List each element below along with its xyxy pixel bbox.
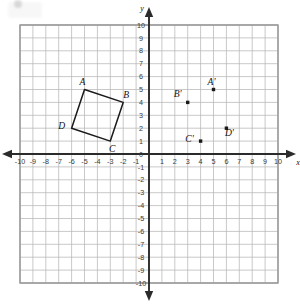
shape-quadrilateral: ABCD xyxy=(57,76,129,155)
y-tick-label-origin: 0 xyxy=(139,150,143,159)
vertex-label: D xyxy=(57,120,65,131)
vertex-label: C' xyxy=(185,133,194,144)
y-tick-label: -5 xyxy=(138,214,144,223)
x-tick-label: -8 xyxy=(43,157,49,166)
coordinate-plane-figure: -10-9-8-7-6-5-4-3-2-112345678910-10-9-8-… xyxy=(0,0,300,307)
y-axis-arrow-up xyxy=(145,7,153,17)
y-tick-label: -9 xyxy=(138,266,144,275)
y-axis-arrow-down xyxy=(145,291,153,301)
y-tick-label: -7 xyxy=(138,240,144,249)
x-tick-label: 4 xyxy=(199,157,203,166)
data-point-marker xyxy=(186,101,189,104)
y-tick-label: 2 xyxy=(139,124,143,133)
x-tick-label: 3 xyxy=(186,157,190,166)
x-tick-label: 8 xyxy=(250,157,254,166)
y-tick-label: 6 xyxy=(139,72,143,81)
data-point-marker xyxy=(199,139,202,142)
x-tick-label: 10 xyxy=(274,157,282,166)
x-tick-label: -10 xyxy=(15,157,25,166)
x-tick-label: 1 xyxy=(160,157,164,166)
x-tick-label: -4 xyxy=(94,157,100,166)
data-point-marker xyxy=(212,88,215,91)
y-tick-label: 3 xyxy=(139,111,143,120)
x-tick-label: -6 xyxy=(68,157,74,166)
coordinate-grid-svg: -10-9-8-7-6-5-4-3-2-112345678910-10-9-8-… xyxy=(0,0,300,307)
x-axis-label: x xyxy=(295,158,300,167)
y-tick-label: -1 xyxy=(138,163,144,172)
vertex-label: A xyxy=(79,76,86,87)
y-tick-label: 5 xyxy=(139,85,143,94)
x-tick-label: -5 xyxy=(81,157,87,166)
y-tick-label: -8 xyxy=(138,253,144,262)
y-axis-label: y xyxy=(139,4,144,13)
x-tick-label: 9 xyxy=(263,157,267,166)
image-point-group: A'B'C'D' xyxy=(174,76,235,145)
y-tick-label: 10 xyxy=(137,21,145,30)
y-tick-label: -2 xyxy=(138,175,144,184)
x-tick-label: -7 xyxy=(55,157,61,166)
x-tick-label: 2 xyxy=(173,157,177,166)
vertex-label: B xyxy=(123,89,129,100)
x-axis-arrow-left xyxy=(2,150,12,158)
y-tick-label: -10 xyxy=(136,279,146,288)
vertex-label: C xyxy=(109,143,116,154)
y-tick-label: 8 xyxy=(139,46,143,55)
tick-labels: -10-9-8-7-6-5-4-3-2-112345678910-10-9-8-… xyxy=(15,4,300,288)
y-tick-label: 4 xyxy=(139,98,143,107)
x-axis-arrow-right xyxy=(286,150,296,158)
x-tick-label: 5 xyxy=(212,157,216,166)
x-tick-label: -9 xyxy=(30,157,36,166)
x-tick-label: -3 xyxy=(107,157,113,166)
y-tick-label: 9 xyxy=(139,34,143,43)
vertex-label: D' xyxy=(224,127,235,138)
x-tick-label: 6 xyxy=(224,157,228,166)
y-tick-label: 1 xyxy=(139,137,143,146)
y-tick-label: -4 xyxy=(138,201,144,210)
x-tick-label: 7 xyxy=(237,157,241,166)
y-tick-label: -6 xyxy=(138,227,144,236)
y-tick-label: 7 xyxy=(139,59,143,68)
y-tick-label: -3 xyxy=(138,188,144,197)
vertex-label: B' xyxy=(174,88,183,99)
vertex-label: A' xyxy=(207,76,217,87)
x-tick-label: -2 xyxy=(120,157,126,166)
